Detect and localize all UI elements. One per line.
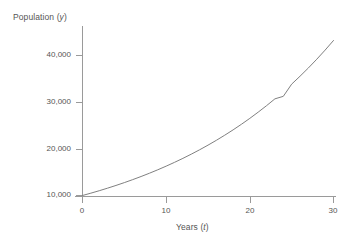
y-axis-title: Population (y) [13,12,67,22]
y-tick-label-40000: 40,000 [31,50,71,59]
population-curve [83,40,334,195]
y-tick-label-30000: 30,000 [31,97,71,106]
y-tick-label-20000: 20,000 [31,144,71,153]
y-tick-label-10000: 10,000 [31,190,71,199]
x-tick-label-20: 20 [238,206,262,215]
x-axis-title-text: Years ( [176,222,203,232]
x-tick-label-10: 10 [154,206,178,215]
x-tick-label-30: 30 [321,206,345,215]
x-tick-label-0: 0 [70,206,94,215]
x-axis-title-paren: ) [206,222,209,232]
x-axis-title: Years (t) [176,222,209,232]
y-axis-title-paren: ) [64,12,67,22]
population-growth-chart: Population (y) Years (t) 40,000 30,000 2… [0,0,351,243]
y-axis-title-text: Population ( [13,12,60,22]
